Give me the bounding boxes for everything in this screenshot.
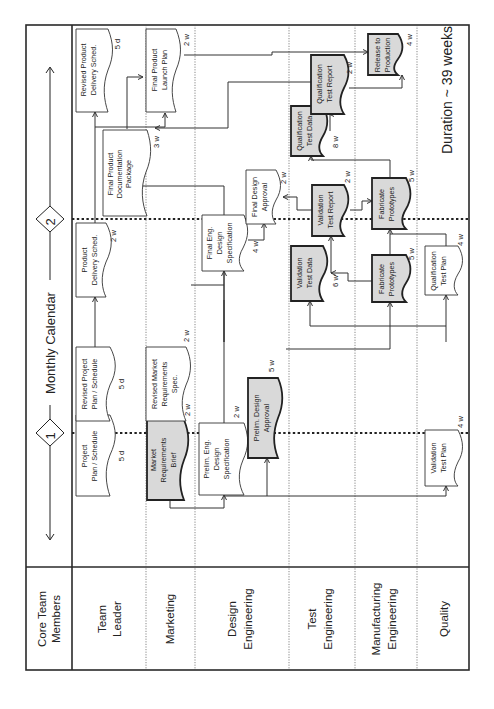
task-final-design-approval[interactable]: Final Design Approval 2 w (246, 170, 288, 224)
svg-text:Market: Market (149, 449, 158, 471)
svg-text:5 d: 5 d (117, 451, 126, 462)
swimlane-diagram: 1 2 Monthly Calendar Core Team Members T… (0, 0, 494, 709)
svg-text:Brief: Brief (169, 453, 178, 468)
svg-text:Test Data: Test Data (305, 116, 314, 146)
svg-text:Fabricate: Fabricate (377, 264, 386, 294)
svg-text:Requirements: Requirements (159, 437, 168, 482)
svg-text:4 w: 4 w (456, 416, 465, 428)
lane-label-team-leader-1: Team (96, 605, 108, 633)
svg-text:Final Eng.: Final Eng. (205, 227, 214, 259)
svg-text:Validation: Validation (316, 194, 325, 225)
svg-text:8 w: 8 w (331, 136, 340, 148)
task-qualification-test-plan[interactable]: Qualification Test Plan 4 w (425, 234, 465, 295)
svg-text:4 w: 4 w (251, 241, 260, 253)
svg-text:5 d: 5 d (113, 39, 122, 50)
calendar-header: 1 2 Monthly Calendar (36, 67, 64, 540)
task-product-delivery-sched[interactable]: Product Delivery Sched. 2 w (76, 223, 118, 297)
svg-text:Specification: Specification (222, 439, 231, 480)
lane-label-design-2: Engineering (242, 588, 254, 649)
svg-text:Test Report: Test Report (326, 192, 335, 229)
svg-text:Prelim. Eng.: Prelim. Eng. (202, 439, 211, 478)
svg-text:Fabricate: Fabricate (377, 189, 386, 219)
svg-text:Production: Production (383, 38, 392, 72)
svg-text:Launch Plan: Launch Plan (160, 50, 169, 90)
svg-text:Qualification: Qualification (429, 251, 438, 291)
lane-label-marketing: Marketing (164, 594, 176, 645)
task-fabricate-prototypes-1[interactable]: Fabricate Prototypes 5 w (372, 248, 416, 302)
svg-text:Plan / Schedule: Plan / Schedule (90, 431, 99, 481)
svg-text:2 w: 2 w (183, 404, 192, 416)
lane-label-mfg-1: Manufacturing (370, 583, 382, 656)
svg-text:4 w: 4 w (405, 34, 414, 46)
svg-text:Specification: Specification (225, 223, 234, 264)
task-qualification-test-report[interactable]: Qualification Test Report 2 w (311, 55, 354, 114)
svg-text:Release to: Release to (373, 38, 382, 72)
svg-text:Spec.: Spec. (170, 375, 179, 393)
task-revised-product-delivery-sched[interactable]: Revised Product Delivery Sched. 5 d (76, 29, 122, 112)
task-prelim-eng-design-spec[interactable]: Prelim. Eng. Design Specification 2 w (199, 406, 248, 495)
svg-text:2 w: 2 w (345, 62, 354, 74)
svg-text:Validation: Validation (429, 442, 438, 473)
svg-text:2 w: 2 w (232, 406, 241, 418)
svg-text:Requirements: Requirements (160, 361, 169, 406)
svg-text:Qualification: Qualification (315, 64, 324, 104)
svg-text:3 w: 3 w (152, 136, 161, 148)
svg-text:6 w: 6 w (331, 275, 340, 287)
lane-label-test-1: Test (306, 608, 318, 630)
svg-text:2 w: 2 w (343, 171, 352, 183)
svg-text:Test Data: Test Data (305, 258, 314, 288)
task-prelim-design-approval[interactable]: Prelim. Design Approval 5 w (248, 360, 283, 458)
svg-text:Package: Package (124, 160, 133, 188)
svg-text:5 d: 5 d (117, 379, 126, 390)
task-final-product-launch-plan[interactable]: Final Product Launch Plan 2 w (146, 29, 191, 112)
svg-text:Delivery Sched.: Delivery Sched. (90, 235, 99, 285)
svg-text:Final Product: Final Product (106, 153, 115, 195)
lane-label-mfg-2: Engineering (386, 588, 398, 649)
svg-text:Test Plan: Test Plan (439, 256, 448, 286)
svg-text:Revised Market: Revised Market (150, 359, 159, 409)
milestone-1-label: 1 (43, 432, 58, 439)
svg-text:2 w: 2 w (279, 172, 288, 184)
svg-text:Revised Product: Revised Product (79, 44, 88, 97)
svg-text:Project: Project (80, 445, 89, 467)
lane-label-design-1: Design (226, 601, 238, 637)
task-release-to-production[interactable]: Release to Production 4 w (368, 34, 414, 75)
svg-text:4 w: 4 w (456, 234, 465, 246)
members-title-line2: Members (50, 595, 62, 643)
milestone-2-label: 2 (43, 218, 58, 225)
svg-text:Prelim. Design: Prelim. Design (252, 395, 261, 442)
svg-text:5 w: 5 w (267, 360, 276, 372)
svg-text:2 w: 2 w (109, 230, 118, 242)
svg-text:Prototypes: Prototypes (387, 186, 396, 221)
svg-text:Product: Product (80, 248, 89, 273)
task-final-product-doc-package[interactable]: Final Product Documentation Package 3 w (103, 130, 161, 216)
svg-text:Revised Project: Revised Project (80, 359, 89, 409)
svg-text:Delivery Sched.: Delivery Sched. (89, 45, 98, 95)
task-validation-test-report[interactable]: Validation Test Report 2 w (312, 171, 352, 236)
lane-label-test-2: Engineering (322, 588, 334, 649)
svg-text:Prototypes: Prototypes (387, 261, 396, 296)
task-validation-test-plan[interactable]: Validation Test Plan 4 w (425, 416, 465, 486)
svg-text:Test Report: Test Report (325, 66, 334, 103)
svg-text:2 w: 2 w (182, 34, 191, 46)
lane-label-team-leader-2: Leader (111, 601, 123, 637)
task-revised-project-plan[interactable]: Revised Project Plan / Schedule 5 d (76, 347, 126, 421)
svg-text:Design: Design (212, 448, 221, 470)
svg-text:Validation: Validation (295, 257, 304, 288)
svg-text:5 w: 5 w (407, 248, 416, 260)
members-title-line1: Core Team (36, 591, 48, 647)
svg-text:Final Product: Final Product (150, 49, 159, 91)
svg-text:Final Design: Final Design (250, 177, 259, 217)
svg-text:Documentation: Documentation (115, 150, 124, 198)
task-project-plan[interactable]: Project Plan / Schedule 5 d (76, 415, 126, 496)
svg-text:5 w: 5 w (407, 170, 416, 182)
calendar-title: Monthly Calendar (43, 291, 58, 394)
svg-text:Approval: Approval (262, 403, 271, 432)
svg-text:Approval: Approval (260, 182, 269, 211)
svg-text:Test Plan: Test Plan (439, 443, 448, 473)
svg-text:Qualification: Qualification (295, 111, 304, 151)
svg-text:Plan / Schedule: Plan / Schedule (90, 359, 99, 409)
svg-text:2 w: 2 w (182, 330, 191, 342)
lane-label-quality: Quality (438, 601, 450, 637)
svg-text:Design: Design (215, 232, 224, 254)
